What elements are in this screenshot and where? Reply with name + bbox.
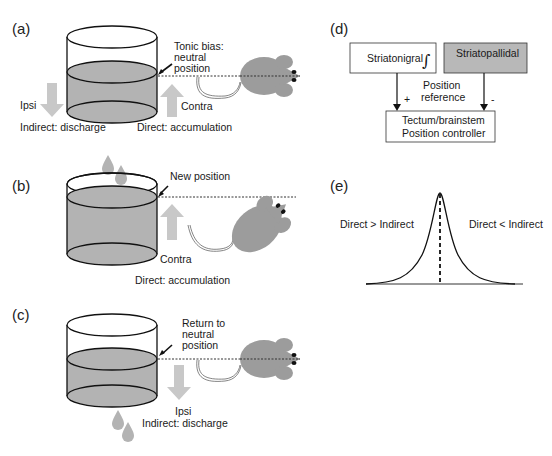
minus-sign: -	[491, 93, 495, 105]
figure: (a) Ipsi Contra Indirect: discharge Dire…	[0, 0, 552, 456]
plus-sign: +	[404, 93, 410, 105]
position-reference-line1: Position	[423, 79, 461, 91]
indirect-discharge-label-a: Indirect: discharge	[20, 121, 106, 133]
mouse-icon-b	[222, 188, 300, 263]
panel-d-label: (d)	[330, 20, 348, 37]
direct-less-indirect-label: Direct < Indirect	[469, 218, 543, 230]
direct-accumulation-label-b: Direct: accumulation	[135, 274, 230, 286]
direct-greater-indirect-label: Direct > Indirect	[340, 218, 414, 230]
striatonigral-label: Striatonigral	[367, 52, 423, 64]
striatopallidal-label: Striatopallidal	[456, 47, 519, 59]
indirect-discharge-label-c: Indirect: discharge	[142, 417, 228, 429]
reservoir-cylinder-b	[67, 173, 157, 265]
integral-icon: ∫	[422, 51, 430, 70]
new-position-label: New position	[170, 170, 230, 182]
arrow-down-icon	[393, 104, 401, 111]
ipsi-label-c: Ipsi	[175, 405, 191, 417]
droplet-icon	[115, 165, 127, 185]
panel-a: (a) Ipsi Contra Indirect: discharge Dire…	[12, 20, 300, 133]
contra-label-b: Contra	[160, 253, 192, 265]
contra-label-a: Contra	[181, 100, 213, 112]
position-label-c: position	[182, 339, 218, 351]
direct-accumulation-label-a: Direct: accumulation	[137, 121, 232, 133]
ipsi-down-arrow-icon	[167, 365, 191, 400]
droplet-icon	[112, 410, 124, 430]
ipsi-down-arrow-icon	[40, 83, 64, 117]
contra-up-arrow-icon	[160, 204, 184, 240]
panel-b-label: (b)	[12, 177, 30, 194]
panel-d: (d) Striatonigral ∫ Striatopallidal + - …	[330, 20, 527, 142]
panel-c: (c) Return to neutral position Ipsi Indi…	[12, 306, 300, 442]
panel-c-label: (c)	[12, 306, 30, 323]
arrow-down-icon	[480, 104, 488, 111]
position-reference-line2: reference	[421, 91, 466, 103]
panel-e: (e) Direct > Indirect Direct < Indirect	[330, 177, 543, 284]
position-controller-label: Position controller	[402, 127, 486, 139]
panel-b: (b) New position Contra Direct: accumula…	[12, 155, 300, 286]
reservoir-cylinder-a	[67, 26, 157, 123]
position-label: position	[174, 62, 210, 74]
panel-e-label: (e)	[330, 177, 348, 194]
tectum-label: Tectum/brainstem	[402, 114, 485, 126]
droplet-icon	[102, 155, 114, 175]
panel-a-label: (a)	[12, 20, 30, 37]
ipsi-label-a: Ipsi	[20, 99, 36, 111]
reservoir-cylinder-c	[67, 314, 157, 407]
